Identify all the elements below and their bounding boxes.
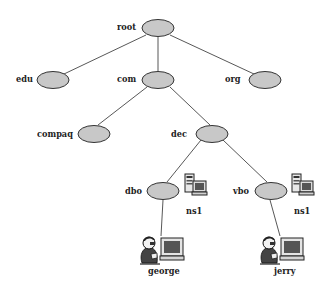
edge-com-compaq — [98, 87, 147, 125]
node-com[interactable] — [142, 72, 174, 89]
edge-com-dec — [170, 87, 210, 125]
edge-dec-vbo — [223, 140, 267, 182]
dns-hierarchy-diagram — [0, 0, 332, 288]
edge-root-org — [170, 35, 254, 74]
node-vbo[interactable] — [255, 183, 287, 200]
edge-dec-dbo — [167, 140, 201, 182]
server-computer-icon — [292, 174, 314, 195]
nodes — [37, 20, 287, 200]
user-at-computer-icon — [140, 237, 184, 264]
label-jerry: jerry — [274, 265, 296, 277]
node-org[interactable] — [249, 72, 281, 89]
label-dec: dec — [171, 128, 187, 140]
label-vbo: vbo — [233, 185, 249, 197]
label-root: root — [117, 21, 136, 33]
user-at-computer-icon — [260, 237, 304, 264]
node-root[interactable] — [142, 20, 174, 37]
label-dbo: dbo — [125, 185, 142, 197]
label-edu: edu — [16, 73, 33, 85]
label-com: com — [117, 73, 136, 85]
server-computer-icon — [185, 174, 207, 195]
label-george: george — [148, 265, 180, 277]
edge-dbo-george — [161, 200, 163, 236]
node-edu[interactable] — [37, 72, 69, 89]
edge-vbo-jerry — [270, 200, 280, 236]
label-vbo-ns1: ns1 — [294, 205, 310, 217]
node-compaq[interactable] — [78, 126, 110, 143]
node-dec[interactable] — [196, 126, 228, 143]
edge-root-edu — [64, 35, 146, 74]
label-org: org — [225, 73, 241, 85]
label-dbo-ns1: ns1 — [186, 205, 202, 217]
node-dbo[interactable] — [147, 183, 179, 200]
label-compaq: compaq — [37, 128, 73, 140]
